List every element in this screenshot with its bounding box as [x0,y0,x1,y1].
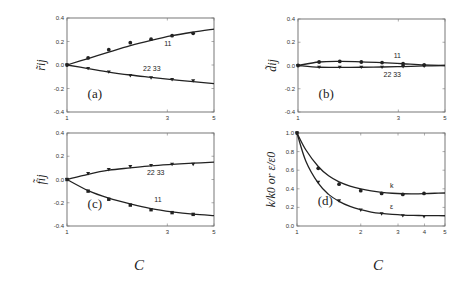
x-tick-label: 5 [443,229,447,235]
y-tick-label: 0.6 [286,167,295,173]
y-tick-label: 0.4 [56,130,65,136]
y-tick-label: -0.4 [54,223,65,229]
series-label: 22 33 [147,169,165,176]
panel-a: -0.4-0.20.00.20.4135r̃ij1122 33(a) [34,15,216,121]
x-tick-label: 5 [443,115,447,121]
series-label: 11 [164,40,171,47]
plot-frame [67,133,214,226]
data-point [316,181,320,184]
y-tick-label: 0.0 [287,63,296,69]
data-point [380,192,384,196]
y-axis-label: d̃ij [265,59,279,72]
data-point [401,214,405,217]
x-tick-label: 5 [212,229,216,235]
data-point [149,37,153,41]
y-tick-label: 0.0 [286,223,295,229]
data-point [86,189,89,192]
y-tick-label: -0.2 [54,86,65,92]
y-tick-label: 0.2 [56,153,65,159]
y-tick-label: 0.2 [287,39,296,45]
data-point [422,192,426,196]
data-point [359,60,363,64]
y-axis-label: k/k0 or ε/ε0 [264,152,278,207]
y-tick-label: -0.2 [54,200,65,206]
y-tick-label: 0.0 [56,62,65,68]
y-tick-label: 0.0 [56,177,65,183]
x-axis-title-left: C [134,257,145,273]
x-tick-label: 1 [296,115,300,121]
x-tick-label: 1 [295,229,299,235]
data-point [337,182,341,186]
panel-label: (b) [319,86,334,101]
panel-label: (a) [88,86,102,101]
data-point [191,163,195,166]
y-tick-label: 0.2 [56,39,65,45]
x-tick-label: 5 [212,115,216,121]
x-tick-label: 4 [423,229,427,235]
series-label: ε [390,203,393,210]
data-point [170,34,174,38]
x-tick-label: 3 [166,229,170,235]
panel-label: (c) [88,196,102,211]
data-point [149,208,152,211]
panel-d: 0.00.20.40.60.81.012345k/k0 or ε/ε0kε(d) [264,130,447,235]
y-axis-label: r̃ij [34,59,48,71]
data-point [317,60,321,64]
series-label: 11 [394,52,401,59]
data-point [191,31,195,35]
x-tick-label: 3 [397,115,401,121]
y-tick-label: 0.2 [286,204,295,210]
data-point [128,41,132,45]
series-label: 22 33 [383,71,401,78]
data-point [107,48,111,52]
data-point [380,61,384,65]
data-point [359,189,363,193]
data-point [191,213,194,216]
figure: -0.4-0.20.00.20.4135r̃ij1122 33(a) -0.4-… [0,0,468,286]
y-tick-label: 0.4 [56,15,65,21]
x-tick-label: 1 [65,229,69,235]
y-tick-label: 0.4 [286,186,295,192]
series-label: 11 [154,196,161,203]
data-point [338,60,342,64]
data-point [316,166,320,170]
data-point [129,203,132,206]
panel-label: (d) [318,193,333,208]
y-tick-label: 0.4 [287,16,296,22]
y-axis-label: f̃ij [33,174,48,185]
data-point [401,192,405,196]
data-point [170,211,173,214]
series-label: k [390,182,394,189]
x-tick-label: 1 [65,115,69,121]
y-tick-label: 0.8 [286,149,295,155]
x-tick-label: 2 [359,229,363,235]
data-point [65,178,68,181]
data-point [422,215,426,218]
x-axis-title-right: C [373,257,384,273]
series-label: 22 33 [143,65,161,72]
x-tick-label: 3 [166,115,170,121]
y-tick-label: -0.4 [285,109,296,115]
y-tick-label: -0.2 [285,86,296,92]
x-tick-label: 3 [396,229,400,235]
y-tick-label: -0.4 [54,109,65,115]
data-point [107,198,110,201]
panel-b: -0.4-0.20.00.20.4135d̃ij1122 33(b) [265,16,448,121]
data-point [86,56,90,60]
y-tick-label: 1.0 [286,130,295,136]
panel-c: -0.4-0.20.00.20.4135f̃ij22 3311(c) [33,130,216,235]
fit-curve-22-33 [67,162,214,179]
